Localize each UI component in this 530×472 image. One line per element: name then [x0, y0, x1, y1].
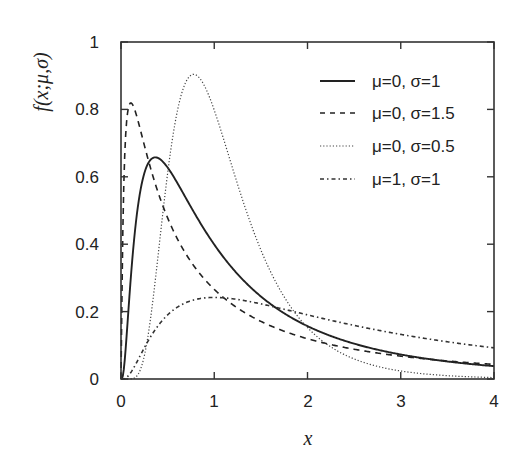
legend-label: μ=0, σ=1.5: [372, 104, 455, 123]
y-tick-label: 0.4: [75, 235, 99, 254]
y-tick-label: 0: [90, 370, 99, 389]
x-tick-label: 1: [209, 392, 218, 411]
x-tick-label: 4: [489, 392, 498, 411]
y-axis-label: f(x;μ,σ): [30, 52, 53, 112]
curve-dash-dot: [121, 297, 494, 379]
legend-label: μ=0, σ=0.5: [372, 137, 455, 156]
x-axis-label: x: [303, 427, 313, 449]
x-tick-label: 3: [396, 392, 405, 411]
x-tick-label: 2: [303, 392, 312, 411]
y-tick-labels: 0 0.2 0.4 0.6 0.8 1: [75, 33, 99, 389]
axis-ticks: [121, 42, 494, 379]
legend: μ=0, σ=1 μ=0, σ=1.5 μ=0, σ=0.5 μ=1, σ=1: [320, 72, 455, 189]
legend-label: μ=0, σ=1: [372, 72, 441, 91]
y-tick-label: 0.8: [75, 100, 99, 119]
curve-solid: [121, 157, 494, 379]
legend-label: μ=1, σ=1: [372, 170, 441, 189]
y-tick-label: 1: [90, 33, 99, 52]
x-tick-label: 0: [116, 392, 125, 411]
y-tick-label: 0.2: [75, 303, 99, 322]
plot-frame: [121, 42, 494, 379]
lognormal-pdf-chart: f(x;μ,σ) 0 0.2 0.4 0.6 0.8 1 0 1 2 3 4 x…: [0, 0, 530, 472]
y-tick-label: 0.6: [75, 168, 99, 187]
x-tick-labels: 0 1 2 3 4: [116, 392, 498, 411]
